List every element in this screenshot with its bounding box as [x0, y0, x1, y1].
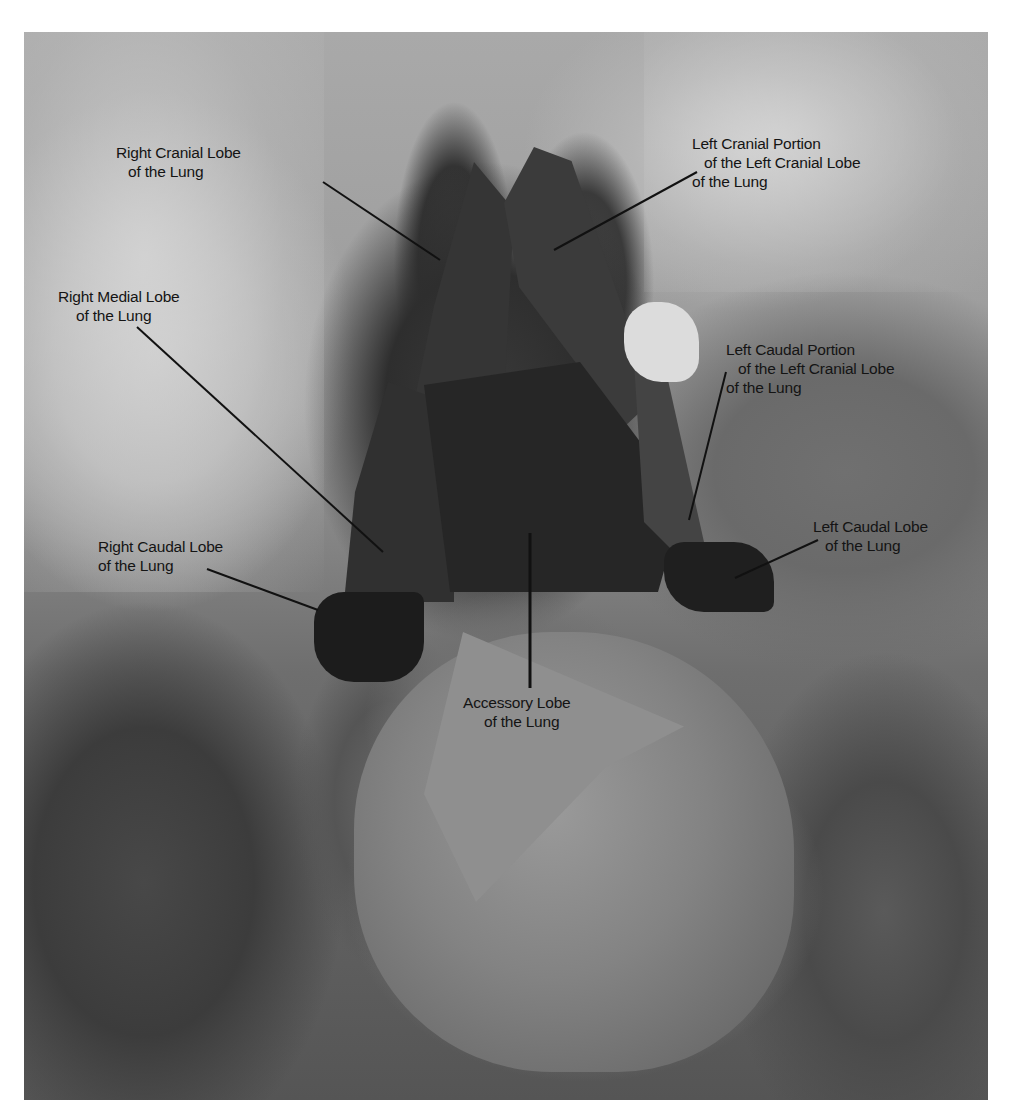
label-left-cranial-portion: Left Cranial Portion of the Left Cranial…: [692, 134, 860, 191]
label-right-caudal-lobe: Right Caudal Lobe of the Lung: [98, 537, 223, 575]
label-left-caudal-lobe: Left Caudal Lobe of the Lung: [813, 517, 928, 555]
label-right-cranial-lobe: Right Cranial Lobe of the Lung: [116, 143, 241, 181]
label-right-medial-lobe: Right Medial Lobe of the Lung: [58, 287, 180, 325]
white-tissue-patch: [624, 302, 699, 382]
left-caudal-lobe-region: [664, 542, 774, 612]
right-caudal-lobe-region: [314, 592, 424, 682]
label-accessory-lobe: Accessory Lobe of the Lung: [463, 693, 570, 731]
label-left-caudal-portion: Left Caudal Portion of the Left Cranial …: [726, 340, 894, 397]
right-cranial-lobe-region: [414, 162, 514, 402]
